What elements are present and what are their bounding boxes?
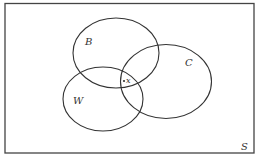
universe-label: S: [241, 141, 248, 152]
set-w-label: W: [73, 95, 84, 106]
set-c-ellipse: [121, 45, 212, 119]
point-x-label: x: [126, 76, 131, 85]
set-b-label: B: [84, 36, 92, 47]
set-b-ellipse: [73, 18, 159, 88]
point-x-dot: [123, 80, 125, 82]
set-c-label: C: [185, 57, 193, 68]
venn-diagram: B C W x S: [0, 0, 258, 161]
